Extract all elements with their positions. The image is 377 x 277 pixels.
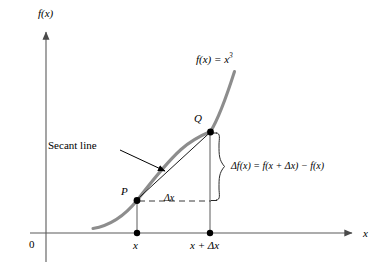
point-q-label: Q	[194, 113, 202, 124]
point-p-marker	[134, 197, 141, 204]
x-axis-tick-label-x: x	[133, 240, 138, 251]
x-axis-label: x	[363, 228, 368, 239]
function-curve	[93, 72, 235, 229]
y-axis-label: f(x)	[38, 8, 53, 19]
origin-label: 0	[29, 239, 35, 250]
delta-fx-brace	[216, 133, 225, 200]
x-axis-tick-label-x-plus-delta-x: x + Δx	[190, 240, 219, 251]
curve-equation-label: f(x) = x3	[196, 52, 233, 65]
point-p-label: P	[121, 186, 128, 197]
secant-line-label: Secant line	[48, 140, 97, 151]
figure-container: f(x) x 0 f(x) = x3 P Q Secant line Δx Δf…	[0, 0, 377, 277]
secant-line	[136, 132, 211, 201]
x-axis-tick-dot-x	[134, 230, 140, 236]
curve-equation-exponent: 3	[229, 51, 233, 60]
x-axis-tick-dot-x-plus-dx	[207, 230, 213, 236]
point-q-marker	[207, 129, 214, 136]
secant-leader-arrow	[120, 150, 165, 171]
delta-x-label: Δx	[164, 193, 174, 203]
curve-equation-base: f(x) = x	[196, 53, 229, 65]
delta-fx-equation-label: Δf(x) = f(x + Δx) − f(x)	[231, 161, 324, 171]
